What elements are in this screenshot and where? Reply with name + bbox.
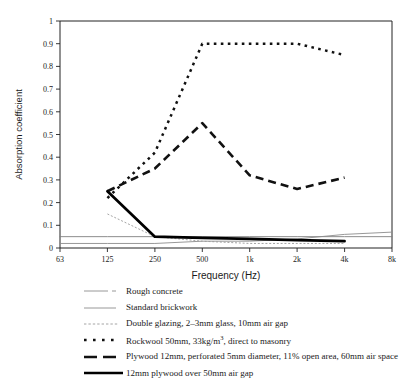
dashed-line-swatch-icon — [82, 351, 124, 363]
legend-label: Plywood 12mm, perforated 5mm diameter, 1… — [126, 352, 398, 361]
legend-label: Rough concrete — [126, 287, 183, 296]
y-tick-label: 0.1 — [43, 221, 53, 230]
legend-label-post: , direct to masonry — [224, 336, 291, 346]
x-tick-label: 250 — [149, 255, 161, 264]
legend-label-pre: Rockwool 50mm, 33kg/m — [126, 336, 220, 346]
x-tick-labels: 63 125 250 500 1k 2k 4k 8k — [56, 255, 396, 264]
thin-solid-line-swatch-icon — [82, 285, 124, 297]
y-tick-label: 0.5 — [43, 131, 53, 140]
legend-item-rough-concrete: Rough concrete — [0, 283, 415, 299]
series-line — [107, 191, 344, 241]
chart-legend: Rough concrete Standard brickwork Double… — [0, 283, 415, 381]
x-tick-label: 2k — [293, 255, 301, 264]
y-tick-label: 0 — [49, 244, 53, 253]
y-axis-title: Absorption coefficient — [13, 89, 24, 180]
legend-label: Double glazing, 2–3mm glass, 10mm air ga… — [126, 319, 288, 328]
legend-item-plywood-perforated: Plywood 12mm, perforated 5mm diameter, 1… — [0, 349, 415, 365]
y-tick-label: 0.6 — [43, 108, 53, 117]
y-tick-label: 0.3 — [43, 176, 53, 185]
x-axis-title: Frequency (Hz) — [192, 270, 261, 281]
legend-item-plywood-air-gap: 12mm plywood over 50mm air gap — [0, 365, 415, 381]
absorption-coefficient-figure: 1 0.9 0.8 0.7 0.6 0.5 0.4 0.3 0.2 0.1 0 … — [0, 0, 415, 383]
y-axis-ticks — [56, 21, 60, 248]
fine-dotted-line-swatch-icon — [82, 318, 124, 330]
legend-label: Rockwool 50mm, 33kg/m3, direct to masonr… — [126, 335, 291, 346]
x-tick-label: 125 — [101, 255, 113, 264]
y-tick-labels: 1 0.9 0.8 0.7 0.6 0.5 0.4 0.3 0.2 0.1 0 — [43, 17, 53, 253]
legend-item-rockwool: Rockwool 50mm, 33kg/m3, direct to masonr… — [0, 332, 415, 348]
x-tick-label: 500 — [196, 255, 208, 264]
plot-frame — [60, 21, 392, 248]
y-tick-label: 0.8 — [43, 62, 53, 71]
chart-area: 1 0.9 0.8 0.7 0.6 0.5 0.4 0.3 0.2 0.1 0 … — [0, 0, 415, 285]
y-tick-label: 0.9 — [43, 40, 53, 49]
y-tick-label: 0.7 — [43, 85, 53, 94]
y-tick-label: 1 — [49, 17, 53, 26]
x-tick-label: 8k — [388, 255, 396, 264]
thick-solid-line-swatch-icon — [82, 367, 124, 379]
legend-label: 12mm plywood over 50mm air gap — [126, 369, 253, 378]
x-tick-label: 1k — [246, 255, 254, 264]
data-series-layer — [60, 44, 392, 244]
x-axis-ticks — [60, 248, 392, 252]
y-tick-label: 0.2 — [43, 199, 53, 208]
y-tick-label: 0.4 — [43, 153, 53, 162]
thin-solid-line-swatch-icon — [82, 302, 124, 314]
legend-item-double-glazing: Double glazing, 2–3mm glass, 10mm air ga… — [0, 316, 415, 332]
legend-item-standard-brickwork: Standard brickwork — [0, 299, 415, 315]
series-line — [107, 123, 344, 191]
absorption-line-chart: 1 0.9 0.8 0.7 0.6 0.5 0.4 0.3 0.2 0.1 0 … — [0, 0, 415, 285]
square-dotted-line-swatch-icon — [82, 334, 124, 346]
x-tick-label: 4k — [341, 255, 349, 264]
x-tick-label: 63 — [56, 255, 64, 264]
legend-label: Standard brickwork — [126, 303, 197, 312]
